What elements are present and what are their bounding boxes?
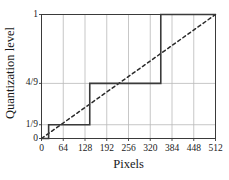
quantization-chart-figure: Quantization level 01/94/91 064128192256… — [0, 0, 229, 180]
x-axis-tick-labels: 064128192256320384448512 — [0, 0, 229, 180]
x-tick-label: 128 — [78, 143, 92, 153]
x-tick-label: 448 — [187, 143, 201, 153]
x-tick-label: 384 — [165, 143, 179, 153]
x-tick-label: 64 — [59, 143, 69, 153]
x-tick-label: 192 — [100, 143, 114, 153]
x-axis-title: Pixels — [41, 157, 216, 171]
x-tick-label: 320 — [143, 143, 157, 153]
x-tick-label: 256 — [121, 143, 135, 153]
x-tick-label: 512 — [208, 143, 222, 153]
x-tick-label: 0 — [39, 143, 44, 153]
